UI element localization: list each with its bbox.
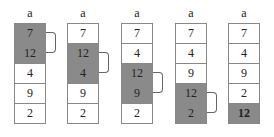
array-cell: 9	[67, 83, 99, 104]
array-label: a	[228, 6, 260, 23]
array-cell: 7	[121, 23, 153, 44]
array-cells: 741292	[121, 23, 153, 124]
array-label: a	[67, 6, 99, 23]
array-cell-compared: 12	[121, 63, 153, 84]
array-cell-compared: 12	[175, 83, 207, 104]
array-cell-compared: 2	[175, 103, 207, 124]
array-cell: 9	[14, 83, 46, 104]
array-cell: 4	[228, 43, 260, 64]
array-step-4: a749122	[175, 6, 207, 124]
array-cells: 749122	[175, 23, 207, 124]
array-label: a	[121, 6, 153, 23]
array-cell: 2	[14, 103, 46, 124]
array-cells: 712492	[14, 23, 46, 124]
swap-bracket	[99, 52, 109, 73]
array-step-2: a712492	[67, 6, 99, 124]
array-cell: 2	[228, 83, 260, 104]
array-cell: 4	[175, 43, 207, 64]
swap-bracket	[207, 92, 217, 113]
array-cell-compared: 9	[121, 83, 153, 104]
array-cell-compared: 12	[67, 43, 99, 64]
array-step-1: a712492	[14, 6, 46, 124]
array-cell-compared: 12	[14, 43, 46, 64]
array-label: a	[175, 6, 207, 23]
array-cell: 2	[67, 103, 99, 124]
array-cell: 7	[228, 23, 260, 44]
array-cells: 712492	[67, 23, 99, 124]
array-cell: 7	[175, 23, 207, 44]
array-cell-compared: 7	[14, 23, 46, 44]
array-cell: 2	[121, 103, 153, 124]
array-cell: 7	[67, 23, 99, 44]
array-cell: 9	[228, 63, 260, 84]
array-step-3: a741292	[121, 6, 153, 124]
swap-bracket	[46, 32, 56, 53]
array-cell: 9	[175, 63, 207, 84]
array-cell: 4	[14, 63, 46, 84]
array-cell-compared: 4	[67, 63, 99, 84]
array-cells: 749212	[228, 23, 260, 124]
array-label: a	[14, 6, 46, 23]
swap-bracket	[153, 72, 163, 93]
array-step-5: a749212	[228, 6, 260, 124]
array-cell: 4	[121, 43, 153, 64]
array-cell-compared: 12	[228, 103, 260, 124]
